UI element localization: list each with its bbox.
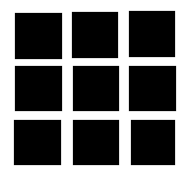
grid-square-1-3: [129, 11, 175, 57]
grid-square-2-1: [15, 66, 62, 111]
grid-square-1-1: [15, 13, 62, 59]
grid-square-3-3: [131, 120, 175, 165]
grid-square-1-2: [72, 12, 118, 58]
grid-square-2-3: [129, 66, 176, 111]
grid-square-3-2: [73, 120, 119, 165]
grid-square-2-2: [73, 66, 119, 111]
grid-square-3-1: [14, 120, 61, 165]
